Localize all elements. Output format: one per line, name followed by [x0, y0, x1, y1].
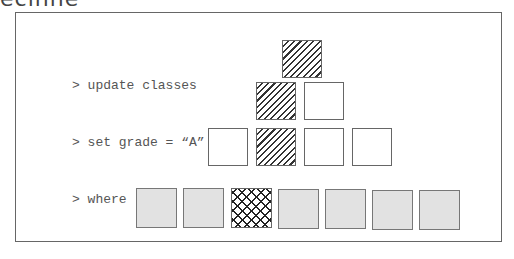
data-block-grey: [372, 190, 413, 230]
code-line-1: > update classes: [72, 76, 205, 95]
pyramid-node-empty: [304, 128, 344, 166]
pyramid-node-empty: [352, 128, 392, 166]
pyramid-node-hatched: [282, 40, 322, 78]
data-block-grey: [183, 188, 224, 228]
cutoff-heading-fragment: ecinne: [0, 0, 79, 11]
data-block-grey: [419, 190, 460, 230]
pyramid-node-hatched: [256, 128, 296, 166]
pyramid-node-empty: [208, 128, 248, 166]
data-block-grey: [136, 188, 177, 228]
data-block-grey: [325, 189, 366, 229]
data-block-crosshatched: [231, 188, 272, 228]
code-line-2: > set grade = “A”: [72, 133, 205, 152]
pyramid-node-empty: [304, 82, 344, 120]
pyramid-node-hatched: [256, 82, 296, 120]
data-block-grey: [278, 189, 319, 229]
